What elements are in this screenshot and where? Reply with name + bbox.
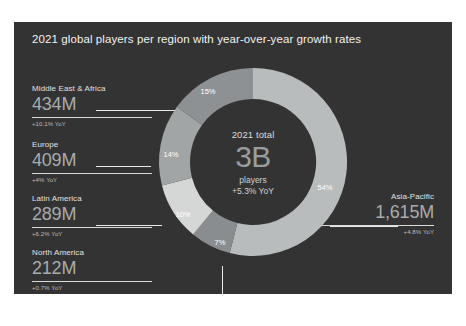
divider — [32, 117, 152, 118]
page-title: 2021 global players per region with year… — [32, 33, 361, 45]
slice-percent-asia-pacific: 54% — [317, 183, 332, 192]
slice-percent-north-america: 7% — [215, 238, 226, 247]
region-name: Latin America — [32, 194, 152, 203]
slice-percent-europe: 14% — [163, 150, 178, 159]
slice-percent-middle-east-africa: 15% — [200, 87, 215, 96]
divider — [32, 173, 152, 174]
slice-percent-latin-america: 10% — [175, 210, 190, 219]
chart-card: 2021 global players per region with year… — [14, 22, 452, 294]
region-callout-north-america[interactable]: North America 212M +0.7% YoY — [32, 248, 152, 291]
region-value: 212M — [32, 258, 152, 278]
region-name: Europe — [32, 140, 152, 149]
divider — [32, 281, 152, 282]
region-yoy: +6.2% YoY — [32, 231, 152, 237]
region-yoy: +0.7% YoY — [32, 285, 152, 291]
region-name: Middle East & Africa — [32, 84, 152, 93]
leader-line-north-america-vertical — [222, 266, 223, 294]
divider — [32, 227, 152, 228]
region-value: 289M — [32, 204, 152, 224]
donut-chart: 54% 7% 10% 14% 15% 2021 total 3B players… — [146, 55, 360, 269]
leader-line-europe — [96, 166, 151, 167]
region-yoy: +4% YoY — [32, 177, 152, 183]
donut-svg: 54% 7% 10% 14% 15% — [146, 55, 360, 269]
region-callout-europe[interactable]: Europe 409M +4% YoY — [32, 140, 152, 183]
region-yoy: +10.1% YoY — [32, 121, 152, 127]
region-callout-latin-america[interactable]: Latin America 289M +6.2% YoY — [32, 194, 152, 237]
region-callout-middle-east-africa[interactable]: Middle East & Africa 434M +10.1% YoY — [32, 84, 152, 127]
region-value: 434M — [32, 94, 152, 114]
region-name: North America — [32, 248, 152, 257]
region-value: 409M — [32, 150, 152, 170]
